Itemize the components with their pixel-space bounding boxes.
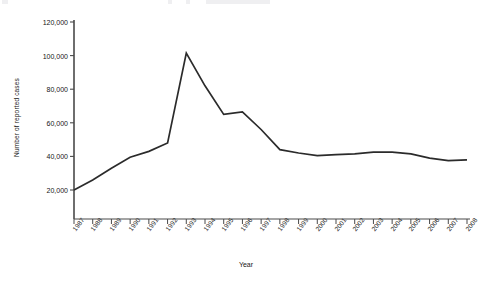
x-axis-title: Year (0, 261, 492, 268)
axes (74, 20, 470, 219)
plot-area (0, 0, 492, 282)
data-series-line (74, 53, 467, 190)
x-axis-tick-marks (74, 219, 467, 224)
chart-figure: Number of reported cases 20,00040,00060,… (0, 0, 492, 282)
